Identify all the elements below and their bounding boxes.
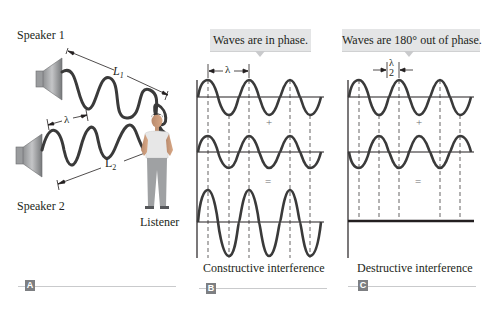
lambda-over-two-label: λ 2 [389, 58, 394, 78]
plus-sign-c: + [416, 116, 422, 128]
destructive-caption: Destructive interference [357, 261, 473, 276]
panel-c-tag: C [358, 280, 368, 291]
equals-sign-c: = [415, 175, 421, 187]
lambda-denominator: 2 [389, 68, 394, 78]
